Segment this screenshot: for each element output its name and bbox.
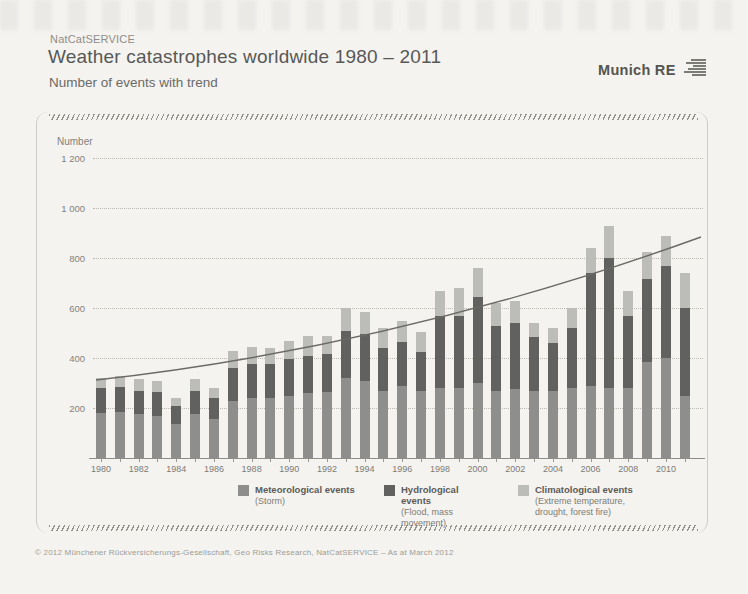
- y-axis-unit-label: Number: [57, 136, 93, 147]
- x-tick-label-2002: 2002: [497, 464, 533, 474]
- bar-1992-meteorological: [322, 392, 332, 458]
- x-tick-1986: [214, 459, 215, 462]
- x-tick-label-1998: 1998: [422, 464, 458, 474]
- x-tick-1992: [327, 459, 328, 462]
- chart-content-box: Number 2004006008001 0001 200 1980198219…: [36, 112, 708, 533]
- bar-1987-climatological: [228, 351, 238, 369]
- scanned-slide-page: NatCatSERVICE Weather catastrophes world…: [0, 0, 748, 594]
- bar-1987-meteorological: [228, 401, 238, 459]
- x-tick-2004: [553, 459, 554, 462]
- legend-item-meteorological: Meteorological events(Storm): [238, 484, 378, 507]
- bar-1991-meteorological: [303, 393, 313, 458]
- legend-item-climatological: Climatological events(Extreme temperatur…: [518, 484, 643, 518]
- x-tick-2006: [591, 459, 592, 462]
- x-tick-label-1992: 1992: [309, 464, 345, 474]
- x-tick-label-1996: 1996: [384, 464, 420, 474]
- bar-1998-hydrological: [435, 316, 445, 389]
- bar-1994-meteorological: [360, 381, 370, 459]
- bar-1997-meteorological: [416, 391, 426, 459]
- bar-2011-meteorological: [680, 396, 690, 459]
- bar-1994-hydrological: [360, 334, 370, 380]
- bar-1999-meteorological: [454, 388, 464, 458]
- bar-2006-meteorological: [586, 386, 596, 459]
- legend-detail: (Storm): [255, 496, 355, 507]
- bar-1996-climatological: [397, 321, 407, 342]
- legend-item-hydrological: Hydrological events(Flood, mass movement…: [384, 484, 484, 529]
- page-subtitle: Number of events with trend: [49, 75, 218, 90]
- bar-1997-hydrological: [416, 352, 426, 391]
- bar-1980-climatological: [96, 378, 106, 388]
- x-tick-2010: [666, 459, 667, 462]
- x-tick-1997: [421, 459, 422, 462]
- x-tick-2007: [609, 459, 610, 462]
- bar-1983-hydrological: [152, 392, 162, 416]
- bar-2004-hydrological: [548, 343, 558, 391]
- munich-re-logo: Munich RE: [598, 56, 707, 84]
- x-tick-2005: [572, 459, 573, 462]
- bar-2003-hydrological: [529, 337, 539, 391]
- bar-2001-climatological: [491, 303, 501, 326]
- legend-label: Climatological events: [535, 484, 643, 495]
- chart-legend: Meteorological events(Storm)Hydrological…: [37, 484, 707, 526]
- y-tick-label-400: 400: [39, 353, 85, 364]
- bar-2003-meteorological: [529, 391, 539, 459]
- y-tick-label-1200: 1 200: [39, 153, 85, 164]
- x-tick-1998: [440, 459, 441, 462]
- y-tick-label-600: 600: [39, 303, 85, 314]
- x-tick-label-1988: 1988: [234, 464, 270, 474]
- legend-label: Meteorological events: [255, 484, 355, 495]
- bar-1988-hydrological: [247, 364, 257, 398]
- bar-1992-hydrological: [322, 354, 332, 392]
- top-hatch-divider: [49, 114, 698, 120]
- x-tick-2008: [628, 459, 629, 462]
- x-tick-2011: [685, 459, 686, 462]
- bar-2006-hydrological: [586, 273, 596, 386]
- bar-1980-meteorological: [96, 413, 106, 458]
- bar-2003-climatological: [529, 323, 539, 337]
- bar-1985-meteorological: [190, 414, 200, 458]
- x-tick-1983: [157, 459, 158, 462]
- x-tick-2002: [515, 459, 516, 462]
- bar-1996-hydrological: [397, 342, 407, 386]
- bar-1990-meteorological: [284, 396, 294, 459]
- legend-swatch-climatological: [518, 485, 529, 496]
- bar-1992-climatological: [322, 336, 332, 355]
- bar-1999-climatological: [454, 288, 464, 316]
- bar-1989-meteorological: [265, 398, 275, 458]
- x-tick-label-2010: 2010: [648, 464, 684, 474]
- x-tick-1987: [233, 459, 234, 462]
- x-tick-2009: [647, 459, 648, 462]
- x-tick-label-1994: 1994: [347, 464, 383, 474]
- x-tick-1993: [346, 459, 347, 462]
- bar-1981-climatological: [115, 376, 125, 387]
- gridline-1200: [93, 158, 703, 159]
- bar-1982-hydrological: [134, 391, 144, 415]
- bar-2000-hydrological: [473, 297, 483, 383]
- x-tick-label-1982: 1982: [121, 464, 157, 474]
- bar-1996-meteorological: [397, 386, 407, 459]
- service-name: NatCatSERVICE: [50, 33, 135, 45]
- x-tick-label-1980: 1980: [83, 464, 119, 474]
- bar-2008-climatological: [623, 291, 633, 316]
- bar-2007-meteorological: [604, 388, 614, 458]
- x-tick-label-1990: 1990: [271, 464, 307, 474]
- bar-1984-climatological: [171, 398, 181, 406]
- bar-1993-hydrological: [341, 331, 351, 379]
- bar-1981-hydrological: [115, 387, 125, 412]
- x-tick-1980: [101, 459, 102, 462]
- x-tick-2003: [534, 459, 535, 462]
- bar-1985-climatological: [190, 379, 200, 390]
- x-tick-1984: [176, 459, 177, 462]
- x-tick-label-2008: 2008: [610, 464, 646, 474]
- bar-2000-climatological: [473, 268, 483, 297]
- x-tick-1990: [289, 459, 290, 462]
- x-tick-1981: [120, 459, 121, 462]
- x-tick-1985: [195, 459, 196, 462]
- bar-2011-climatological: [680, 273, 690, 308]
- x-tick-1995: [383, 459, 384, 462]
- x-tick-1988: [252, 459, 253, 462]
- bar-1987-hydrological: [228, 368, 238, 401]
- bar-2009-hydrological: [642, 279, 652, 362]
- x-tick-label-2006: 2006: [573, 464, 609, 474]
- legend-swatch-hydrological: [384, 485, 395, 496]
